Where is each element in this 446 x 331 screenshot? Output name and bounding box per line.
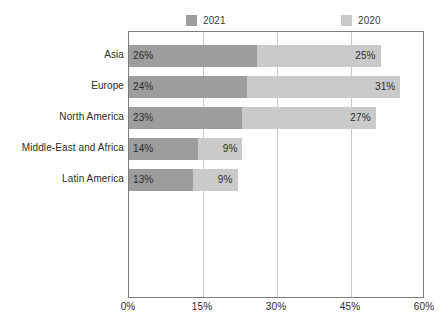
bar-value-label: 23% [133,107,153,129]
category-axis-labels: AsiaEuropeNorth AmericaMiddle-East and A… [0,31,124,298]
chart-legend: 2021 2020 [0,13,446,29]
legend-label-2020: 2020 [358,15,381,26]
bars-layer: 26%25%24%31%23%27%14%9%13%9% [129,32,423,297]
x-axis-tick-labels: 0%15%30%45%60% [128,301,424,317]
x-tick-label: 45% [340,301,360,312]
bar-segment-2020[interactable]: 27% [242,107,375,129]
category-label: Asia [104,44,124,66]
bar-segment-2020[interactable]: 25% [257,45,380,67]
bar-segment-2020[interactable]: 31% [247,76,400,98]
bar-row: 26%25% [129,45,423,67]
legend-item-2021[interactable]: 2021 [186,13,226,27]
x-tick-label: 0% [121,301,136,312]
x-tick-label: 15% [192,301,212,312]
bar-value-label: 24% [133,76,153,98]
legend-label-2021: 2021 [203,15,226,26]
bar-row: 14%9% [129,138,423,160]
bar-segment-2021[interactable]: 26% [129,45,257,67]
category-label: Latin America [62,168,124,190]
bar-value-label: 13% [133,169,153,191]
bar-value-label: 26% [133,45,153,67]
bar-value-label: 27% [350,107,370,129]
bar-segment-2020[interactable]: 9% [198,138,242,160]
category-label: Middle-East and Africa [22,137,124,159]
plot-area: 26%25%24%31%23%27%14%9%13%9% [128,31,424,298]
bar-value-label: 14% [133,138,153,160]
stacked-bar-chart: 2021 2020 AsiaEuropeNorth AmericaMiddle-… [0,0,446,331]
bar-value-label: 9% [223,138,238,160]
bar-value-label: 25% [355,45,375,67]
category-label: Europe [91,75,124,97]
legend-item-2020[interactable]: 2020 [341,13,381,27]
bar-row: 23%27% [129,107,423,129]
x-tick-label: 60% [414,301,434,312]
bar-segment-2021[interactable]: 23% [129,107,242,129]
bar-row: 13%9% [129,169,423,191]
bar-segment-2021[interactable]: 13% [129,169,193,191]
x-tick-label: 30% [266,301,286,312]
legend-swatch-2020 [341,15,352,26]
bar-segment-2021[interactable]: 24% [129,76,247,98]
category-label: North America [59,106,124,128]
legend-swatch-2021 [186,15,197,26]
bar-segment-2020[interactable]: 9% [193,169,237,191]
bar-row: 24%31% [129,76,423,98]
bar-value-label: 9% [218,169,233,191]
bar-segment-2021[interactable]: 14% [129,138,198,160]
bar-value-label: 31% [375,76,395,98]
